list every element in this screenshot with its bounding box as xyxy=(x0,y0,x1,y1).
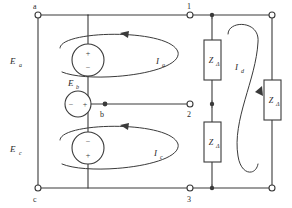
source-eb-minus-sign: − xyxy=(69,100,74,109)
node-c-terminal[interactable] xyxy=(35,185,41,191)
source-ea-label: E xyxy=(9,56,16,66)
node-b-terminal[interactable] xyxy=(103,102,108,107)
node-a-label: a xyxy=(33,2,37,11)
node-1-label: 1 xyxy=(187,2,191,11)
source-ea-plus-sign: + xyxy=(86,49,91,58)
mesh-current-ia-label: I xyxy=(155,56,160,66)
source-ea-minus-sign: − xyxy=(86,63,91,72)
junction-top-middle xyxy=(210,13,214,17)
impedance-z2: Z Δ xyxy=(204,122,221,162)
impedance-z3-label: Z xyxy=(269,96,274,105)
source-ec-plus-sign: + xyxy=(86,151,91,160)
circuit-schematic: + − E a − + E b − + E c Z Δ Z xyxy=(0,0,292,208)
mesh-loop-id: I d xyxy=(228,24,263,172)
node-b-label: b xyxy=(100,110,104,119)
impedance-z1-label: Z xyxy=(209,56,214,65)
mesh-current-ic-subscript: c xyxy=(160,154,163,160)
impedance-z3-subscript: Δ xyxy=(275,101,280,107)
circuit-diagram-canvas: + − E a − + E b − + E c Z Δ Z xyxy=(0,0,292,208)
source-eb: − + E b xyxy=(65,78,91,117)
source-eb-label: E xyxy=(67,78,74,88)
mesh-current-ia-subscript: a xyxy=(162,62,165,68)
node-bottom-right-terminal[interactable] xyxy=(269,185,275,191)
mesh-loop-id-arrowhead xyxy=(255,86,263,96)
source-ea-subscript: a xyxy=(19,62,22,68)
junction-mid-middle xyxy=(210,102,214,106)
node-c-label: c xyxy=(33,195,37,204)
node-a-terminal[interactable] xyxy=(35,12,41,18)
mesh-current-ic-label: I xyxy=(153,148,158,158)
source-eb-plus-sign: + xyxy=(83,100,88,109)
impedance-z1-subscript: Δ xyxy=(215,61,220,67)
impedance-z2-subscript: Δ xyxy=(215,143,220,149)
source-ec: − + E c xyxy=(9,132,104,164)
junction-bottom-middle xyxy=(210,186,214,190)
source-ec-minus-sign: − xyxy=(86,137,91,146)
source-eb-subscript: b xyxy=(76,84,79,90)
node-2-terminal[interactable] xyxy=(187,101,193,107)
mesh-current-id-subscript: d xyxy=(241,68,245,74)
node-top-right-terminal[interactable] xyxy=(269,12,275,18)
node-2-label: 2 xyxy=(187,110,191,119)
node-1-terminal[interactable] xyxy=(187,12,193,18)
source-ea: + − E a xyxy=(9,44,104,76)
impedance-z2-label: Z xyxy=(209,138,214,147)
mesh-loop-id-arc xyxy=(228,24,258,172)
impedance-z1: Z Δ xyxy=(204,40,221,80)
node-3-terminal[interactable] xyxy=(187,185,193,191)
source-ec-subscript: c xyxy=(19,150,22,156)
mesh-current-id-label: I xyxy=(234,62,239,72)
source-ec-label: E xyxy=(9,144,16,154)
node-3-label: 3 xyxy=(187,195,191,204)
impedance-z3: Z Δ xyxy=(264,80,281,120)
